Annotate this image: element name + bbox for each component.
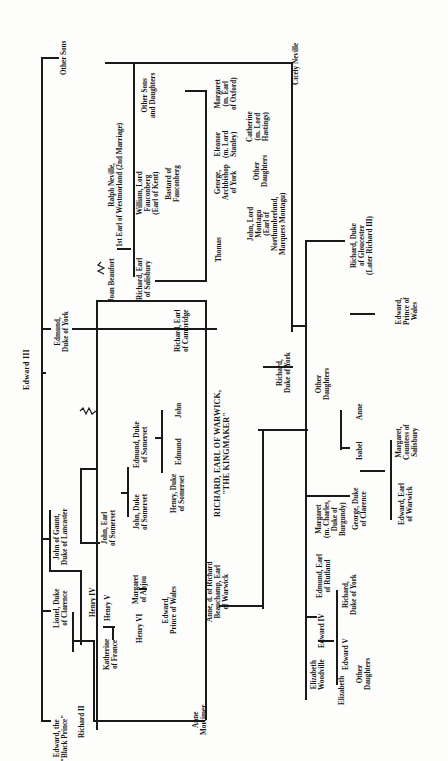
person-cecily-neville: Cicely Neville — [292, 43, 300, 85]
edmund-york-branch — [41, 328, 51, 330]
person-eleanor: Eleanor (m. Lord Stanley) — [214, 130, 238, 158]
person-anne-mortimer: Anne Mortimer — [192, 705, 208, 735]
person-john-of-gaunt: John of Gaunt, Duke of Lancaster — [53, 508, 69, 565]
lionel-branch — [41, 610, 51, 612]
person-henry-vi: Henry VI — [136, 614, 144, 643]
person-anne: Anne — [356, 404, 364, 420]
person-john: John — [175, 403, 183, 418]
person-richard-duke-of-york-2: Richard, Duke of York — [342, 574, 358, 615]
person-ralph-neville: Ralph Neville, 1st Earl of Westmorland (… — [108, 123, 124, 247]
person-joan-beaufort: Joan Beaufort — [108, 258, 116, 302]
warwick-vert — [262, 429, 264, 609]
person-richard-ii: Richard II — [78, 705, 86, 738]
to-anne-mortimer — [93, 720, 205, 722]
person-warwick-kingmaker: RICHARD, EARL OF WARWICK, "THE KINGMAKER… — [213, 390, 231, 517]
gaunt-to-beaufort — [80, 468, 97, 470]
person-edmund-duke-somerset: Edmund, Duke of Somerset — [133, 421, 149, 468]
cecily-vert — [291, 62, 293, 332]
person-george-archbishop: George, Archbishop of York — [214, 164, 238, 200]
illegitimate-line-icon — [80, 408, 96, 414]
person-edmund: Edmund — [175, 438, 183, 465]
york-children-vert — [305, 240, 307, 700]
person-henry-iv: Henry IV — [89, 588, 97, 617]
york-clarence — [305, 495, 350, 497]
person-margaret-burgundy: Margaret (m. Charles, Duke of Burgundy) — [315, 500, 347, 538]
person-edward-earl-warwick: Edward, Earl of Warwick — [398, 483, 414, 525]
mortimer-vert — [93, 640, 95, 722]
person-edward-prince-of-wales-2: Edward, Prince of Wales — [395, 297, 419, 325]
person-edmund-rutland: Edmund, Earl of Rutland — [316, 554, 332, 598]
person-margaret-anjou: Margaret of Anjou — [132, 575, 148, 604]
person-william-fauconberg: William, Lord Fauconberg (Earl of Kent) — [136, 171, 160, 215]
clarence-isabel-marriage — [360, 470, 385, 472]
person-edmund-york: Edmund, Duke of York — [54, 311, 70, 352]
person-other-sons-daughters: Other Sons and Daughters — [141, 73, 157, 118]
person-henry-duke-somerset: Henry, Duke of Somerset — [170, 474, 186, 513]
person-richard-gloucester: Richard, Duke of Gloucester (Later Richa… — [350, 216, 374, 275]
edmund-somerset-kids-vert — [161, 410, 163, 473]
warwick-daughters — [258, 429, 308, 431]
gaunt-split — [49, 510, 51, 570]
salisbury-line — [155, 280, 207, 282]
neville-children-vert — [133, 62, 135, 277]
gaunt-to-henry-iv — [49, 570, 80, 572]
person-elizabeth: Elizabeth — [338, 676, 346, 705]
person-bastard-fauconberg: Bastard of Fauconberg — [165, 165, 181, 202]
clarence-children-vert — [390, 440, 392, 520]
person-other-sons: Other Sons — [60, 41, 68, 75]
beaufort-to-john — [80, 542, 100, 544]
york-children-top — [291, 325, 306, 327]
cambridge-mortimer-vert — [205, 300, 207, 720]
person-john-montagu: John, Lord Montagu (Earl of Northumberla… — [247, 193, 287, 255]
other-sons-branch — [41, 57, 59, 59]
sal-eleanor — [185, 90, 205, 92]
york-gloucester — [305, 240, 345, 242]
person-edward-iii: Edward III — [22, 349, 31, 390]
salisbury-children — [205, 90, 207, 280]
person-richard-cambridge: Richard, Earl of Cambridge — [174, 309, 190, 352]
edmund-york-main — [72, 328, 217, 330]
york-edward-iv — [305, 616, 317, 618]
black-prince-branch — [41, 720, 51, 722]
illegitimate-line-icon — [98, 262, 104, 276]
person-lionel: Lionel, Duke of Clarence — [53, 588, 69, 628]
person-richard-duke-of-york: Richard, Duke of York — [276, 352, 292, 393]
gloucester-anne-marriage — [350, 313, 375, 315]
person-edward-iv: Edward IV — [318, 613, 326, 648]
neville-beaufort-marriage — [117, 248, 131, 250]
person-john-earl-somerset: John, Earl of Somerset — [101, 510, 117, 546]
person-john-duke-somerset: John, Duke of Somerset — [133, 494, 149, 530]
beaufort-vert — [80, 468, 82, 543]
person-elizabeth-woodville: Elizabeth Woodville — [310, 659, 326, 690]
edward-iv-kids — [336, 590, 338, 685]
person-edward-v: Edward V — [342, 638, 350, 670]
edward-iii-tick — [41, 372, 46, 374]
person-margaret-oxford: Margaret (m. Earl of Oxford) — [214, 77, 238, 110]
person-margaret-salisbury: Margaret, Countess of Salisbury — [395, 424, 419, 460]
person-edward-prince-of-wales-1: Edward, Prince of Wales — [162, 586, 178, 634]
person-katherine: Katherine of France — [103, 639, 119, 670]
person-other-daughters-2: Other Daughters — [315, 368, 331, 400]
person-george-clarence: George, Duke of Clarence — [352, 488, 368, 530]
person-other-daughters-3: Other Daughters — [356, 658, 372, 690]
henry-iv-vert — [80, 570, 82, 645]
person-thomas: Thomas — [215, 237, 223, 262]
family-tree-diagram: Edward III Other Sons Edmund, Duke of Yo… — [0, 0, 448, 761]
cecily-top — [105, 62, 292, 64]
person-anne-beauchamp: Anne, d. of Richard Beauchamp, Earl of W… — [206, 561, 230, 622]
person-richard-salisbury: Richard, Earl of Salisbury — [136, 258, 152, 300]
lionel-descendant-vert — [72, 612, 74, 652]
person-isabel: Isabel — [356, 442, 364, 460]
lionel-descendant-h — [72, 640, 94, 642]
person-catherine: Catherine (m. Lord Hastings) — [246, 111, 270, 142]
person-other-daughters-1: Other Daughters — [253, 155, 269, 187]
gaunt-branch-a — [41, 538, 49, 540]
edward-iii-children-line — [41, 57, 43, 721]
somerset-sons — [127, 467, 129, 517]
person-henry-v: Henry V — [104, 595, 112, 621]
anne-isabel-vert — [340, 410, 342, 450]
person-black-prince: Edward, the "Black Prince" — [53, 715, 69, 761]
gaunt-children-line — [96, 300, 98, 730]
to-isabel — [340, 447, 350, 449]
